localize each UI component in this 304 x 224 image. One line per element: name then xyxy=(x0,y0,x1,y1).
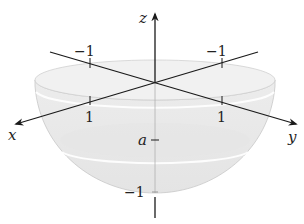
diagram-svg: z x y −1 −1 1 1 a −1 xyxy=(0,0,304,224)
tick-label-z-neg-one: −1 xyxy=(124,184,145,200)
x-axis-label: x xyxy=(8,126,17,144)
z-axis-label: z xyxy=(138,9,147,27)
tick-label-a: a xyxy=(138,131,147,149)
tick-label-one-right: 1 xyxy=(217,109,226,125)
y-axis-label: y xyxy=(287,128,297,146)
tick-label-neg-one-left: −1 xyxy=(74,43,95,59)
tick-label-one-left: 1 xyxy=(85,109,94,125)
tick-label-neg-one-right: −1 xyxy=(206,43,227,59)
hemisphere-diagram: z x y −1 −1 1 1 a −1 xyxy=(0,0,304,224)
